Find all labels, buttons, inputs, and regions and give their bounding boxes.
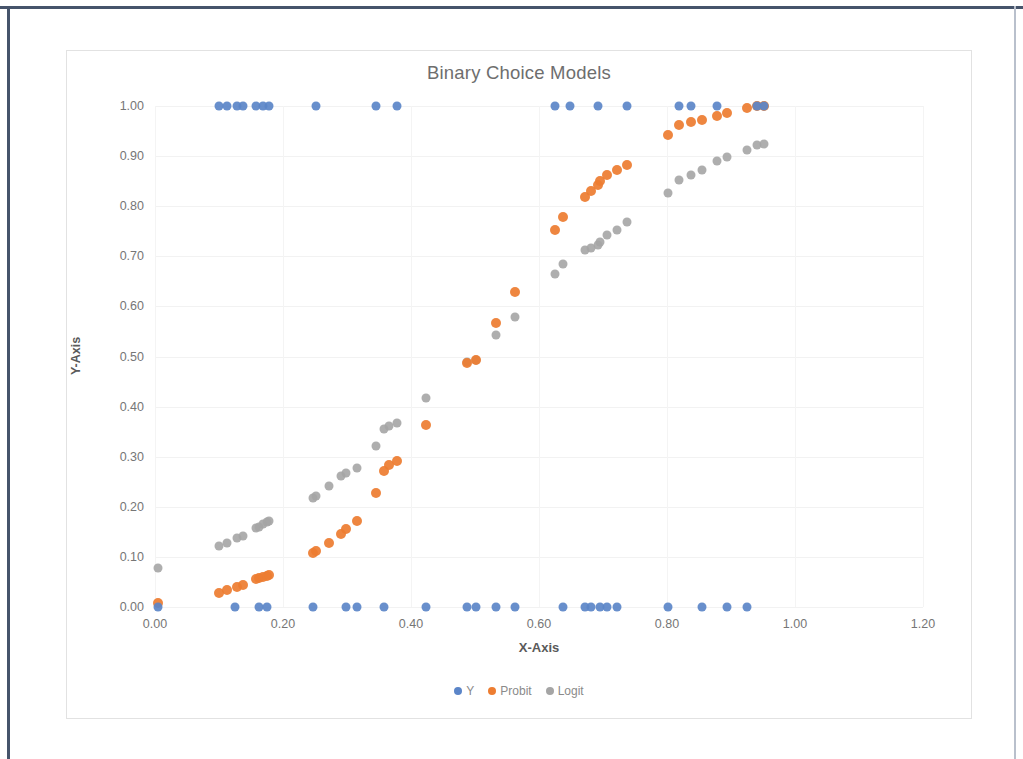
data-point-probit[interactable] [371,488,381,498]
data-point-y[interactable] [472,603,481,612]
data-point-y[interactable] [154,603,163,612]
data-point-probit[interactable] [686,117,696,127]
data-point-y[interactable] [687,102,696,111]
data-point-y[interactable] [263,603,272,612]
data-point-probit[interactable] [510,287,520,297]
data-point-logit[interactable] [674,176,683,185]
data-point-logit[interactable] [421,393,430,402]
document-page: Binary Choice Models 0.000.100.200.300.4… [0,0,1023,759]
y-axis-tick-label: 0.50 [120,350,144,364]
data-point-logit[interactable] [392,418,401,427]
data-point-y[interactable] [593,102,602,111]
data-point-logit[interactable] [595,238,604,247]
data-point-y[interactable] [622,102,631,111]
data-point-logit[interactable] [664,189,673,198]
data-point-y[interactable] [559,603,568,612]
data-point-logit[interactable] [559,259,568,268]
data-point-logit[interactable] [238,531,247,540]
plot-area [155,106,923,607]
data-point-logit[interactable] [551,269,560,278]
data-point-logit[interactable] [312,491,321,500]
data-point-logit[interactable] [760,139,769,148]
data-point-y[interactable] [380,603,389,612]
data-point-logit[interactable] [353,463,362,472]
data-point-logit[interactable] [371,441,380,450]
data-point-y[interactable] [722,603,731,612]
data-point-y[interactable] [309,603,318,612]
data-point-y[interactable] [264,102,273,111]
data-point-probit[interactable] [238,580,248,590]
data-point-probit[interactable] [222,585,232,595]
data-point-probit[interactable] [550,225,560,235]
data-point-probit[interactable] [471,355,481,365]
data-point-y[interactable] [698,603,707,612]
data-point-logit[interactable] [154,563,163,572]
data-point-probit[interactable] [491,318,501,328]
data-point-y[interactable] [371,102,380,111]
data-point-probit[interactable] [663,130,673,140]
data-point-y[interactable] [664,603,673,612]
data-point-y[interactable] [586,603,595,612]
legend-item-y[interactable]: Y [454,684,474,698]
legend-swatch-icon [546,687,554,695]
data-point-probit[interactable] [462,358,472,368]
data-point-y[interactable] [760,102,769,111]
data-point-logit[interactable] [223,538,232,547]
data-point-logit[interactable] [341,468,350,477]
data-point-probit[interactable] [392,456,402,466]
data-point-probit[interactable] [324,538,334,548]
data-point-logit[interactable] [712,157,721,166]
data-point-y[interactable] [238,102,247,111]
data-point-y[interactable] [492,603,501,612]
y-axis-tick-label: 0.60 [120,299,144,313]
data-point-probit[interactable] [602,170,612,180]
data-point-y[interactable] [613,603,622,612]
data-point-y[interactable] [551,102,560,111]
legend-item-logit[interactable]: Logit [546,684,584,698]
data-point-logit[interactable] [722,153,731,162]
data-point-probit[interactable] [722,108,732,118]
data-point-y[interactable] [312,102,321,111]
data-point-probit[interactable] [622,160,632,170]
data-point-y[interactable] [462,603,471,612]
data-point-y[interactable] [353,603,362,612]
data-point-probit[interactable] [612,165,622,175]
data-point-probit[interactable] [558,212,568,222]
data-point-y[interactable] [674,102,683,111]
data-point-logit[interactable] [492,331,501,340]
data-point-logit[interactable] [325,481,334,490]
data-point-y[interactable] [341,603,350,612]
data-point-probit[interactable] [742,103,752,113]
data-point-y[interactable] [392,102,401,111]
x-axis-tick-label: 0.40 [399,617,423,631]
y-axis-tick-label: 0.40 [120,400,144,414]
x-axis-tick-label: 1.00 [783,617,807,631]
gridline-vertical [923,106,924,607]
data-point-probit[interactable] [352,516,362,526]
data-point-probit[interactable] [697,115,707,125]
data-point-y[interactable] [712,102,721,111]
data-point-probit[interactable] [311,546,321,556]
data-point-probit[interactable] [674,120,684,130]
data-point-y[interactable] [421,603,430,612]
data-point-probit[interactable] [712,111,722,121]
data-point-logit[interactable] [602,231,611,240]
data-point-logit[interactable] [622,218,631,227]
data-point-y[interactable] [510,603,519,612]
data-point-logit[interactable] [687,171,696,180]
data-point-logit[interactable] [698,166,707,175]
legend-item-probit[interactable]: Probit [488,684,531,698]
data-point-logit[interactable] [613,226,622,235]
data-point-y[interactable] [565,102,574,111]
data-point-logit[interactable] [510,313,519,322]
data-point-y[interactable] [231,603,240,612]
x-axis-title: X-Axis [155,640,923,655]
data-point-y[interactable] [223,102,232,111]
data-point-y[interactable] [602,603,611,612]
data-point-probit[interactable] [421,420,431,430]
data-point-probit[interactable] [341,524,351,534]
data-point-logit[interactable] [743,146,752,155]
data-point-logit[interactable] [264,516,273,525]
data-point-y[interactable] [743,603,752,612]
data-point-probit[interactable] [264,570,274,580]
